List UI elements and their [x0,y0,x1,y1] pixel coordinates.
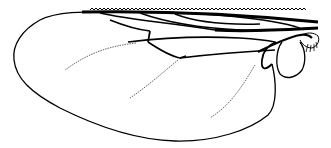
vein-m [128,37,275,42]
basal-setae [306,42,317,52]
vein-to-crossvein [110,20,150,31]
wing-illustration [0,0,331,148]
vein-r1 [100,13,215,30]
wing-drawing [0,0,331,148]
costa-serration [90,8,306,10]
vein-cu [148,42,275,58]
faint-vein-lower [210,65,255,118]
alula-outline [277,42,305,77]
faint-vein-middle [130,60,178,98]
faint-vein-upper [65,43,136,70]
